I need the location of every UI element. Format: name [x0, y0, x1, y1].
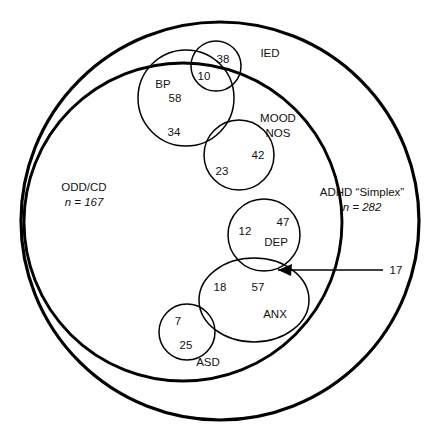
label-mood-nos-line2: NOS: [266, 127, 291, 139]
count-dep-12: 12: [239, 225, 252, 237]
set-circle-odd-cd: [24, 63, 342, 381]
label-mood-nos-line1: MOOD: [260, 112, 296, 124]
count-asd-25: 25: [180, 339, 193, 351]
label-odd-cd-n: n = 167: [65, 196, 104, 208]
count-bp-58: 58: [169, 92, 182, 104]
count-mood-nos-23: 23: [216, 165, 229, 177]
label-ied: IED: [260, 47, 279, 59]
set-circle-adhd-simplex: [21, 22, 419, 420]
count-bp-ied-10: 10: [198, 70, 211, 82]
count-anx-57: 57: [252, 281, 265, 293]
label-asd: ASD: [196, 356, 220, 368]
count-dep-47: 47: [277, 216, 290, 228]
count-anx-18: 18: [214, 281, 227, 293]
count-mood-nos-42: 42: [252, 149, 265, 161]
venn-diagram-figure: ADHD “Simplex” n = 282 ODD/CD n = 167 IE…: [0, 0, 433, 444]
count-bp-34: 34: [168, 126, 181, 138]
label-adhd-simplex-n: n = 282: [343, 201, 382, 213]
label-anx: ANX: [263, 308, 287, 320]
label-dep: DEP: [264, 236, 288, 248]
count-asd-7: 7: [175, 315, 181, 327]
label-bp: BP: [155, 78, 171, 90]
callout-value-17: 17: [390, 264, 403, 276]
count-ied-38: 38: [217, 53, 230, 65]
label-adhd-simplex: ADHD “Simplex”: [320, 186, 405, 198]
venn-diagram-canvas: ADHD “Simplex” n = 282 ODD/CD n = 167 IE…: [0, 0, 433, 444]
label-odd-cd: ODD/CD: [61, 181, 106, 193]
set-circle-asd: [159, 304, 215, 360]
